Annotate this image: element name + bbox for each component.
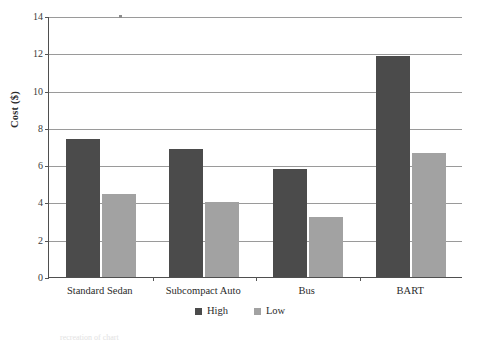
bar-high-3 — [376, 56, 410, 277]
x-tick-mark — [153, 277, 154, 281]
legend-label-low: Low — [266, 306, 285, 317]
bar-low-1 — [205, 202, 239, 277]
x-axis-label-2: Bus — [299, 286, 315, 297]
y-tick-mark — [45, 166, 49, 167]
chart-legend: HighLow — [0, 306, 480, 317]
legend-swatch-icon-high — [195, 308, 202, 315]
x-tick-mark — [256, 277, 257, 281]
legend-entry-high[interactable]: High — [195, 306, 228, 317]
y-axis-title: Cost ($) — [9, 91, 20, 128]
scan-bleed-artifact: recreation of chart — [60, 333, 119, 341]
y-tick-label: 4 — [38, 198, 43, 208]
y-tick-label: 10 — [33, 87, 43, 97]
y-tick-mark — [45, 278, 49, 279]
y-tick-mark — [45, 92, 49, 93]
y-tick-label: 8 — [38, 124, 43, 134]
y-tick-label: 2 — [38, 236, 43, 246]
plot-area: 02468101214 — [48, 17, 462, 278]
y-tick-label: 6 — [38, 161, 43, 171]
bar-high-1 — [169, 149, 203, 277]
y-tick-mark — [45, 129, 49, 130]
bar-low-0 — [102, 194, 136, 277]
bar-high-2 — [273, 169, 307, 277]
x-axis-label-0: Standard Sedan — [67, 286, 133, 297]
figure: Cost ($) 02468101214 Standard SedanSubco… — [0, 0, 480, 341]
x-tick-mark — [360, 277, 361, 281]
x-axis-label-1: Subcompact Auto — [166, 286, 241, 297]
y-tick-mark — [45, 203, 49, 204]
y-tick-mark — [45, 54, 49, 55]
scan-speck-artifact — [119, 15, 122, 18]
legend-label-high: High — [207, 306, 228, 317]
bar-high-0 — [66, 139, 100, 277]
y-tick-label: 14 — [33, 12, 43, 22]
bar-low-2 — [309, 217, 343, 277]
y-tick-label: 12 — [33, 49, 43, 59]
x-axis-label-3: BART — [397, 286, 424, 297]
bar-low-3 — [412, 153, 446, 277]
y-tick-label: 0 — [38, 273, 43, 283]
legend-swatch-icon-low — [254, 308, 261, 315]
y-tick-mark — [45, 241, 49, 242]
y-tick-mark — [45, 17, 49, 18]
legend-entry-low[interactable]: Low — [254, 306, 285, 317]
gridline — [49, 17, 462, 18]
